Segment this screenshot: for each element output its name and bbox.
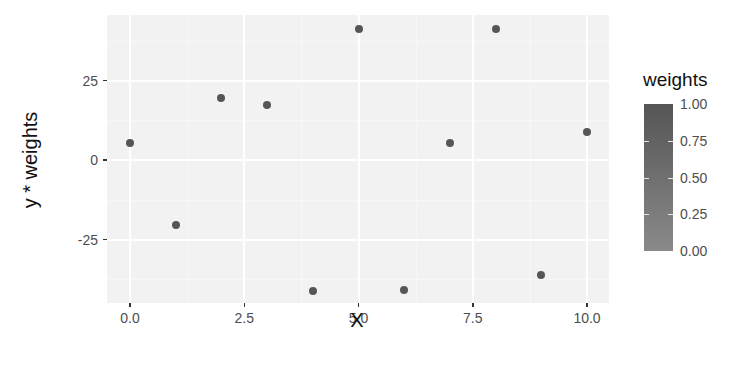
y-tick-mark <box>103 80 107 82</box>
legend-tick-left <box>644 214 649 215</box>
data-point <box>126 139 134 147</box>
y-tick-mark <box>103 159 107 161</box>
data-point <box>446 139 454 147</box>
data-point <box>583 128 591 136</box>
y-tick-label: 0 <box>48 152 98 168</box>
data-point <box>537 271 545 279</box>
y-tick-mark <box>103 239 107 241</box>
legend-tick-right <box>668 214 673 215</box>
grid-line-major-y <box>107 80 609 82</box>
x-tick-mark <box>358 303 360 307</box>
legend-title: weights <box>643 69 707 91</box>
data-point <box>217 94 225 102</box>
grid-line-major-y <box>107 159 609 161</box>
grid-line-major-y <box>107 239 609 241</box>
data-point <box>492 25 500 33</box>
y-tick-label: -25 <box>48 232 98 248</box>
x-tick-label: 7.5 <box>448 310 498 326</box>
legend-tick-left <box>644 178 649 179</box>
x-axis-title: X <box>350 309 363 332</box>
x-tick-mark <box>472 303 474 307</box>
data-point <box>400 286 408 294</box>
x-tick-label: 0.0 <box>105 310 155 326</box>
x-tick-mark <box>586 303 588 307</box>
data-point <box>309 287 317 295</box>
x-tick-mark <box>129 303 131 307</box>
legend-label: 0.25 <box>680 206 707 222</box>
legend-label: 0.50 <box>680 170 707 186</box>
legend-label: 1.00 <box>680 96 707 112</box>
plot-panel <box>107 15 609 303</box>
y-axis-title: y * weights <box>19 112 42 209</box>
legend-tick-right <box>668 141 673 142</box>
x-tick-mark <box>244 303 246 307</box>
legend-tick-left <box>644 141 649 142</box>
legend-label: 0.00 <box>680 243 707 259</box>
legend-tick-right <box>668 178 673 179</box>
legend-label: 0.75 <box>680 133 707 149</box>
y-tick-label: 25 <box>48 73 98 89</box>
data-point <box>355 25 363 33</box>
x-tick-label: 10.0 <box>562 310 612 326</box>
x-tick-label: 2.5 <box>219 310 269 326</box>
data-point <box>172 221 180 229</box>
data-point <box>263 101 271 109</box>
